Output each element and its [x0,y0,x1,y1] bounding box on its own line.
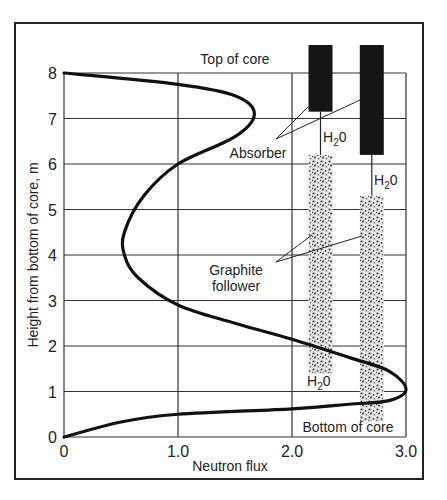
grid-lines [64,73,406,437]
x-axis-title: Neutron flux [192,458,267,474]
svg-text:H20: H20 [374,172,398,191]
h2o-label-rod2: H20 [374,172,398,191]
graphite-follower-1 [309,155,333,373]
svg-text:H20: H20 [323,129,347,148]
absorber-leader-1 [276,105,310,139]
neutron-flux-chart: 01234567801.02.03.0 Top of core Bottom o… [0,0,447,500]
x-tick-label: 0 [60,443,69,460]
absorber-rod-2 [360,45,384,155]
x-tick-label: 3.0 [395,443,417,460]
absorber-label: Absorber [230,145,287,161]
y-tick-label: 5 [48,202,57,219]
y-tick-label: 6 [48,156,57,173]
bottom-of-core-label: Bottom of core [302,419,393,435]
y-tick-label: 3 [48,293,57,310]
graphite-leader-1 [276,235,312,262]
y-tick-label: 0 [48,429,57,446]
x-tick-label: 2.0 [281,443,303,460]
h2o-label-rod1: H20 [323,129,347,148]
y-tick-label: 8 [48,65,57,82]
x-tick-label: 1.0 [167,443,189,460]
top-of-core-label: Top of core [200,51,269,67]
y-tick-label: 4 [48,247,57,264]
y-tick-label: 2 [48,338,57,355]
svg-text:H20: H20 [307,373,331,392]
h2o-label-bottom: H20 [307,373,331,392]
graphite-label-line2: follower [212,278,261,294]
graphite-follower-2 [360,196,384,421]
y-tick-label: 1 [48,384,57,401]
graphite-label-line1: Graphite [209,262,263,278]
y-axis-title: Height from bottom of core, m [25,162,41,347]
y-tick-label: 7 [48,111,57,128]
absorber-rod-1 [309,45,333,112]
